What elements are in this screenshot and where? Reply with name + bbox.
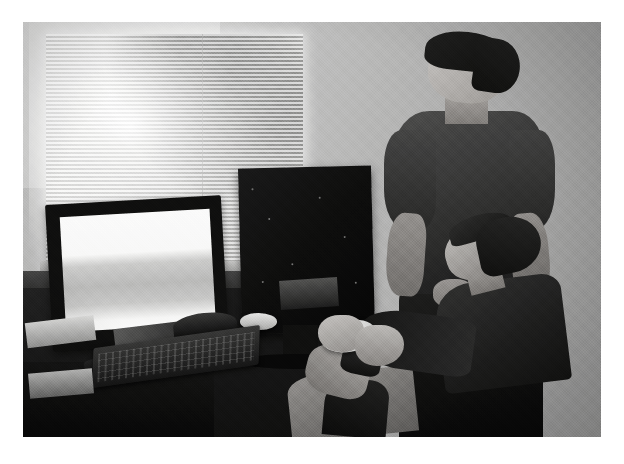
desk-clutter-right bbox=[279, 277, 339, 310]
photograph bbox=[23, 22, 601, 437]
page-canvas bbox=[0, 0, 624, 464]
secondary-monitor-rear bbox=[238, 166, 375, 335]
papers-front-desk bbox=[28, 368, 94, 398]
